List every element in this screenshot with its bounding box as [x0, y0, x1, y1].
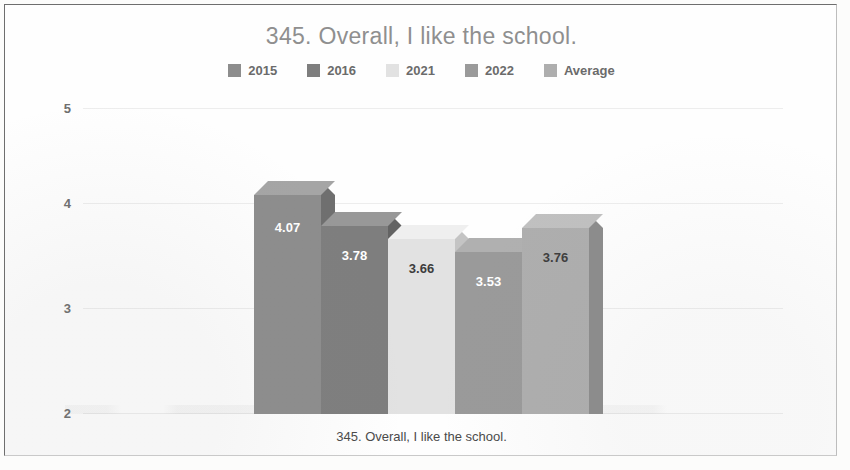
chart-legend: 2015 2016 2021 2022 Average	[5, 63, 838, 78]
bar-2015	[254, 181, 321, 414]
bar-2021-value-label: 3.66	[388, 261, 455, 276]
legend-swatch-2021	[386, 64, 399, 77]
chart-plot-area: 345. Overall, I like the school. 2015 20…	[5, 5, 838, 457]
bar-average	[522, 214, 589, 414]
legend-label-2015: 2015	[248, 63, 277, 78]
bar-average-top-face	[522, 214, 603, 228]
legend-swatch-2015	[228, 64, 241, 77]
bar-2016-value-label: 3.78	[321, 248, 388, 263]
legend-item-2016: 2016	[307, 63, 356, 78]
chart-title: 345. Overall, I like the school.	[5, 23, 838, 50]
legend-swatch-2022	[465, 64, 478, 77]
bar-2021	[388, 225, 455, 414]
y-axis-tick-3: 3	[41, 301, 71, 316]
legend-label-average: Average	[564, 63, 615, 78]
bar-2015-value-label: 4.07	[254, 220, 321, 235]
scanned-page: 345. Overall, I like the school. 2015 20…	[0, 0, 850, 470]
x-axis-title: 345. Overall, I like the school.	[5, 429, 838, 444]
gridline-4	[83, 203, 783, 204]
bar-2022	[455, 238, 522, 414]
legend-swatch-2016	[307, 64, 320, 77]
bar-average-side-body	[589, 228, 603, 414]
bar-2022-value-label: 3.53	[455, 274, 522, 289]
legend-item-2021: 2021	[386, 63, 435, 78]
y-axis-tick-2: 2	[41, 406, 71, 421]
bar-2016-top-face	[321, 212, 402, 226]
page-border: 345. Overall, I like the school. 2015 20…	[4, 4, 837, 456]
legend-item-average: Average	[544, 63, 615, 78]
legend-label-2021: 2021	[406, 63, 435, 78]
legend-label-2022: 2022	[485, 63, 514, 78]
bar-average-value-label: 3.76	[522, 250, 589, 265]
gridline-5	[83, 108, 783, 109]
y-axis-tick-5: 5	[41, 101, 71, 116]
legend-item-2022: 2022	[465, 63, 514, 78]
legend-label-2016: 2016	[327, 63, 356, 78]
legend-swatch-average	[544, 64, 557, 77]
bar-2021-top-face	[388, 225, 469, 239]
legend-item-2015: 2015	[228, 63, 277, 78]
y-axis-tick-4: 4	[41, 196, 71, 211]
bar-2015-top-face	[254, 181, 335, 195]
bar-2016	[321, 212, 388, 414]
